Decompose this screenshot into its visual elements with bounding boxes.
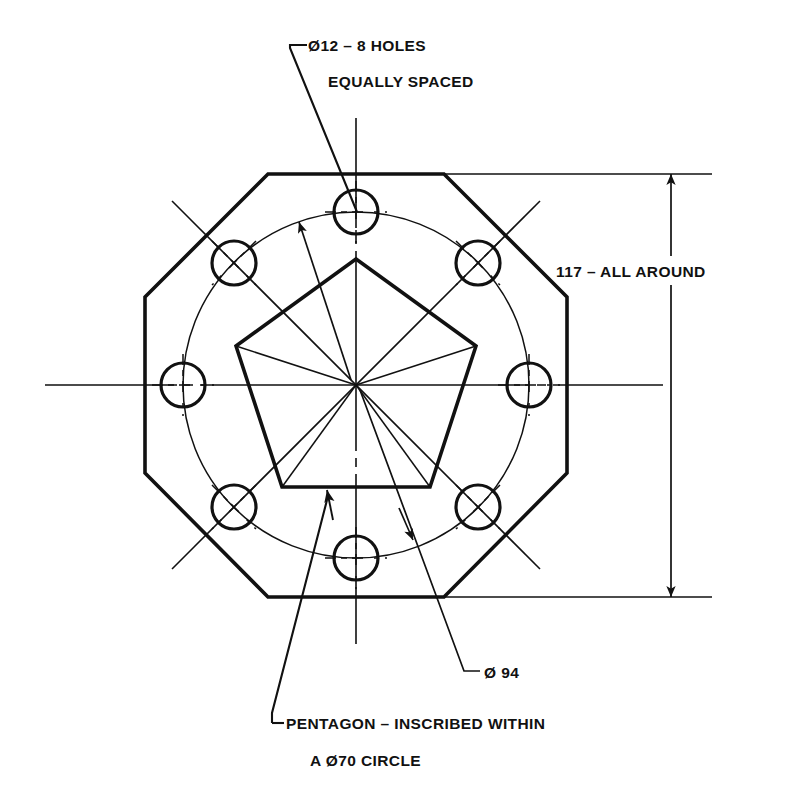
engineering-drawing-canvas: 117 – ALL AROUND Ø12 – 8 HOLES EQUALLY S…	[0, 0, 803, 790]
holes-note-line2: EQUALLY SPACED	[328, 73, 474, 90]
technical-drawing-page: 117 – ALL AROUND Ø12 – 8 HOLES EQUALLY S…	[0, 0, 803, 790]
pentagon-radius-4	[236, 346, 356, 385]
pentagon-radius-2	[356, 385, 430, 487]
bolt-circle-dimension-leader	[360, 390, 480, 671]
holes-note-line1: Ø12 – 8 HOLES	[308, 37, 426, 54]
hole-left	[152, 354, 214, 416]
hole-right	[498, 354, 560, 416]
pentagon-note-line1: PENTAGON – INSCRIBED WITHIN	[286, 715, 545, 732]
pentagon-note-leader-line	[272, 500, 327, 723]
hole-bottom	[325, 527, 387, 589]
pentagon-radius-3	[282, 385, 356, 487]
pentagon-note-leader-arrow	[327, 490, 333, 520]
holes-note-leader-line	[290, 45, 357, 212]
bolt-circle-label: Ø 94	[484, 664, 519, 681]
across-flats-label: 117 – ALL AROUND	[556, 263, 706, 280]
holes-note-leader-group: Ø12 – 8 HOLES EQUALLY SPACED	[290, 37, 474, 212]
pentagon-radius-1	[356, 346, 476, 385]
pentagon-note-line2: A Ø70 CIRCLE	[310, 752, 421, 769]
bolt-circle-dimension-group: Ø 94	[299, 222, 519, 681]
bolt-circle-dimension-line-upper	[299, 222, 351, 380]
